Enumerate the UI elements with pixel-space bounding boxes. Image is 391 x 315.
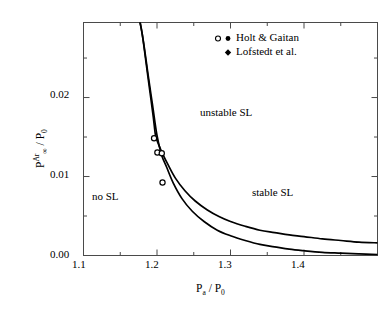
- legend-entry-holt-gaitan: Holt & Gaitan: [236, 31, 299, 43]
- y-axis-title-p: P: [34, 162, 46, 168]
- x-tick-label: 1.3: [218, 258, 232, 270]
- legend-entry-lofstedt: Lofstedt et al.: [236, 45, 297, 57]
- y-axis-title-subscript-zero: 0: [40, 129, 49, 133]
- y-axis-title-subscript: ∞: [40, 148, 49, 153]
- y-tick-label: 0.02: [50, 88, 69, 100]
- x-tick-label: 1.1: [72, 258, 86, 270]
- tick-marks: [84, 23, 378, 256]
- region-label-stable-sl: stable SL: [252, 186, 293, 198]
- y-axis-title-superscript: Ar: [32, 154, 41, 162]
- x-axis-title-subscript-zero: 0: [221, 288, 225, 297]
- y-tick-label: 0.00: [50, 248, 69, 260]
- plot-canvas: [0, 0, 391, 315]
- sonoluminescence-phase-diagram: 1.1 1.2 1.3 1.4 0.00 0.01 0.02 Pa / P0 P…: [0, 0, 391, 315]
- y-axis-title-sep: / P: [34, 133, 46, 148]
- x-tick-label: 1.4: [291, 258, 305, 270]
- x-axis-title: Pa / P0: [196, 282, 225, 297]
- threshold-curves: [140, 23, 377, 255]
- y-axis-title: PAr∞ / P0: [32, 129, 49, 168]
- axis-frame: [84, 23, 378, 256]
- region-label-no-sl: no SL: [92, 190, 119, 202]
- region-label-unstable-sl: unstable SL: [200, 106, 252, 118]
- y-tick-label: 0.01: [50, 168, 69, 180]
- x-axis-title-sep: / P: [206, 282, 221, 294]
- legend-markers: [216, 36, 232, 56]
- x-tick-label: 1.2: [145, 258, 159, 270]
